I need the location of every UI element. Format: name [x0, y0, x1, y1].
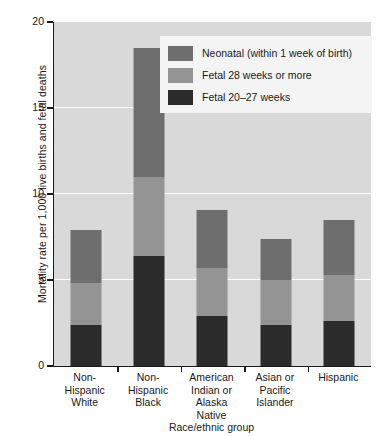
- x-category-label: Non-HispanicBlack: [116, 371, 179, 409]
- x-category-label-line: Non-: [53, 371, 116, 384]
- stacked-bar[interactable]: [70, 230, 101, 366]
- x-category-label-line: Hispanic: [116, 384, 179, 397]
- legend-label: Fetal 20–27 weeks: [202, 91, 290, 103]
- x-category-label-line: American: [180, 371, 243, 384]
- legend-item[interactable]: Fetal 28 weeks or more: [168, 64, 372, 86]
- bar-segment[interactable]: [260, 280, 291, 325]
- legend-swatch: [168, 46, 193, 61]
- y-tick-label: 0: [38, 359, 44, 371]
- bar-segment[interactable]: [197, 316, 228, 366]
- x-category-label-line: Black: [116, 396, 179, 409]
- x-category-label: Hispanic: [307, 371, 370, 384]
- legend-label: Neonatal (within 1 week of birth): [202, 47, 352, 59]
- bar-segment[interactable]: [70, 325, 101, 366]
- stacked-bar[interactable]: [197, 210, 228, 367]
- x-axis-title: Race/ethnic group: [53, 421, 370, 433]
- legend-item[interactable]: Fetal 20–27 weeks: [168, 86, 372, 108]
- x-category-label-line: Hispanic: [53, 384, 116, 397]
- y-tick-label: 15: [32, 101, 44, 113]
- x-category-label-line: Non-: [116, 371, 179, 384]
- legend: Neonatal (within 1 week of birth)Fetal 2…: [160, 36, 372, 113]
- y-tick-label: 5: [38, 273, 44, 285]
- bar-segment[interactable]: [197, 210, 228, 268]
- legend-label: Fetal 28 weeks or more: [202, 69, 312, 81]
- bar-segment[interactable]: [197, 268, 228, 316]
- legend-item[interactable]: Neonatal (within 1 week of birth): [168, 42, 372, 64]
- y-axis-title: Mortality rate per 1,000 live births and…: [36, 14, 48, 354]
- legend-swatch: [168, 68, 193, 83]
- x-category-label-line: Pacific: [243, 384, 306, 397]
- bar-segment[interactable]: [260, 325, 291, 366]
- x-category-label-line: Asian or: [243, 371, 306, 384]
- legend-swatch: [168, 90, 193, 105]
- stacked-bar-chart: Mortality rate per 1,000 live births and…: [0, 0, 376, 436]
- x-category-label-line: White: [53, 396, 116, 409]
- y-tick-label: 20: [32, 15, 44, 27]
- x-category-label: AmericanIndian orAlaskaNative: [180, 371, 243, 421]
- bar-segment[interactable]: [260, 239, 291, 280]
- y-tick-label: 10: [32, 187, 44, 199]
- bar-segment[interactable]: [324, 275, 355, 321]
- x-category-label-line: Indian or: [180, 384, 243, 397]
- x-category-label-line: Native: [180, 409, 243, 422]
- x-category-label-line: Islander: [243, 396, 306, 409]
- bar-segment[interactable]: [70, 283, 101, 324]
- bar-segment[interactable]: [324, 321, 355, 366]
- bar-segment[interactable]: [134, 256, 165, 366]
- x-axis-category-labels: Non-HispanicWhiteNon-HispanicBlackAmeric…: [53, 371, 370, 427]
- bar-segment[interactable]: [70, 230, 101, 283]
- bar-slot: [54, 22, 117, 366]
- x-category-label: Asian orPacificIslander: [243, 371, 306, 409]
- stacked-bar[interactable]: [324, 220, 355, 366]
- bar-segment[interactable]: [324, 220, 355, 275]
- x-category-label-line: Alaska: [180, 396, 243, 409]
- stacked-bar[interactable]: [260, 239, 291, 366]
- x-category-label-line: Hispanic: [307, 371, 370, 384]
- x-category-label: Non-HispanicWhite: [53, 371, 116, 409]
- bar-segment[interactable]: [134, 177, 165, 256]
